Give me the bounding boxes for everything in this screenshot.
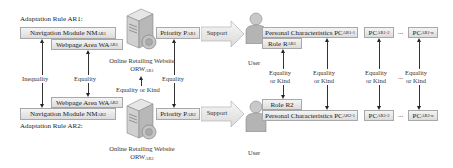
role-relation-label: Equality or Kind [269, 69, 291, 85]
pc1-relation-line1: Equality [313, 69, 335, 77]
rule2-website-line2: ORW [130, 153, 145, 160]
rule2-pcn-box: PCAR2-n [408, 110, 438, 121]
rule1-website-line1: Online Retailing Website [104, 57, 180, 65]
rule1-nav-text: Navigation Module NM [30, 29, 98, 37]
rule1-role-box: Role RAR1 [262, 38, 302, 49]
rule2-nav-text: Navigation Module NM [30, 110, 98, 118]
rule2-priority-sub: AR2 [187, 112, 196, 117]
arrowhead-down [281, 95, 285, 99]
rule1-nav-sub: AR1 [98, 31, 107, 36]
rule1-pc1-text: Personal Characteristics PC [265, 29, 343, 37]
rule1-pc2-sub: AR1-2 [377, 30, 389, 35]
rule1-support-label: Support [202, 29, 232, 37]
rule2-title: Adaptation Rule AR2: [20, 122, 83, 130]
rule1-pcn-box: PCAR1-n [408, 27, 438, 38]
rule1-priority-text: Priority P [160, 29, 187, 37]
rule1-website-line2: ORW [130, 65, 145, 72]
priority-relation-label: Equality [162, 75, 184, 83]
rule1-pc1-sub: AR1-1 [343, 30, 355, 35]
pcn-relation-line2: or Kind [405, 77, 427, 85]
webpage-relation-line [88, 53, 89, 94]
rule1-priority-box: Priority PAR1 [156, 27, 200, 39]
rule2-pc2-box: PCAR2-2 [364, 110, 394, 121]
rule1-pcn-text: PC [413, 29, 422, 37]
rule2-role-box: Role R2 [262, 99, 302, 110]
role-relation-line1: Equality [269, 69, 291, 77]
rule2-support-label: Support [202, 109, 232, 117]
arrowhead-down [172, 104, 176, 108]
rule1-role-text: Role R [268, 40, 288, 48]
rule2-website-line1: Online Retailing Website [104, 145, 180, 153]
arrowhead-down [325, 106, 329, 110]
priority-relation-line [174, 42, 175, 105]
rule1-priority-sub: AR1 [187, 31, 196, 36]
rule2-priority-box: Priority PAR2 [156, 108, 200, 120]
rule1-navigation-module-box: Navigation Module NMAR1 [20, 27, 116, 39]
rule2-priority-text: Priority P [160, 110, 187, 118]
pc2-relation-label: Equality or Kind [365, 69, 387, 85]
nav-relation-label: Inequality [22, 75, 48, 83]
rule1-webpage-area-box: Webpage Area WAAR1 [51, 39, 123, 50]
pcn-relation-line1: Equality [405, 69, 427, 77]
pcn-relation-label: Equality or Kind [405, 69, 427, 85]
rule1-user-label: User [248, 59, 260, 67]
rule1-pcn-sub: AR1-n [421, 30, 433, 35]
rule1-wa-text: Webpage Area WA [56, 41, 109, 49]
arrowhead-down [417, 106, 421, 110]
rule2-website-sub: AR2 [145, 156, 154, 161]
rule1-title: Adaptation Rule AR1: [20, 15, 83, 23]
pc2-relation-line1: Equality [365, 69, 387, 77]
rule2-pcn-text: PC [413, 112, 422, 120]
rule1-role-sub: AR1 [288, 41, 297, 46]
rule2-personal-characteristics-box: Personal Characteristics PCAR2-1 [262, 110, 358, 121]
rule2-website-label: Online Retailing Website ORWAR2 [104, 145, 180, 163]
arrowhead-down [40, 104, 44, 108]
rule2-role-text: Role R2 [270, 101, 293, 109]
server-icon [123, 6, 159, 52]
server-icon [123, 96, 159, 142]
rule1-wa-sub: AR1 [109, 42, 118, 47]
rule2-pcn-sub: AR2-n [421, 113, 433, 118]
rule1-pc2-text: PC [369, 29, 378, 37]
rule1-pc-ellipsis: ... [398, 28, 403, 36]
pc1-relation-label: Equality or Kind [313, 69, 335, 85]
rule2-navigation-module-box: Navigation Module NMAR2 [20, 108, 116, 120]
pc2-relation-line2: or Kind [365, 77, 387, 85]
rule2-wa-text: Webpage Area WA [56, 99, 109, 107]
rule2-pc2-text: PC [369, 112, 378, 120]
rule2-user-label: User [248, 149, 260, 157]
relation-ellipsis: ... [398, 73, 403, 81]
rule1-pc2-box: PCAR1-2 [364, 27, 394, 38]
rule2-wa-sub: AR2 [109, 100, 118, 105]
rule2-pc-ellipsis: ... [398, 111, 403, 119]
website-relation-label: Equality or Kind [116, 86, 160, 94]
rule1-personal-characteristics-box: Personal Characteristics PCAR1-1 [262, 27, 358, 38]
rule1-website-label: Online Retailing Website ORWAR1 [104, 57, 180, 75]
rule2-pc1-text: Personal Characteristics PC [265, 112, 343, 120]
arrowhead-down [86, 93, 90, 97]
webpage-relation-label: Equality [74, 75, 96, 83]
rule1-website-sub: AR1 [145, 68, 154, 73]
rule2-pc2-sub: AR2-2 [377, 113, 389, 118]
nav-relation-line [42, 42, 43, 105]
rule2-pc1-sub: AR2-1 [343, 113, 355, 118]
pc1-relation-line2: or Kind [313, 77, 335, 85]
rule2-nav-sub: AR2 [98, 112, 107, 117]
arrowhead-down [377, 106, 381, 110]
role-relation-line2: or Kind [269, 77, 291, 85]
rule2-webpage-area-box: Webpage Area WAAR2 [51, 97, 123, 108]
